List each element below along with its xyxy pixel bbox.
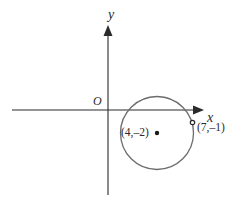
center-point — [155, 131, 159, 135]
coordinate-diagram — [0, 0, 243, 205]
x-axis-arrow-icon — [193, 106, 204, 115]
point-on-circle — [190, 120, 194, 124]
origin-label: O — [93, 95, 102, 107]
y-axis-arrow-icon — [104, 25, 113, 36]
center-point-label: (4,–2) — [121, 127, 149, 139]
point-on-circle-label: (7,–1) — [197, 122, 225, 134]
y-axis-label: y — [108, 8, 114, 22]
